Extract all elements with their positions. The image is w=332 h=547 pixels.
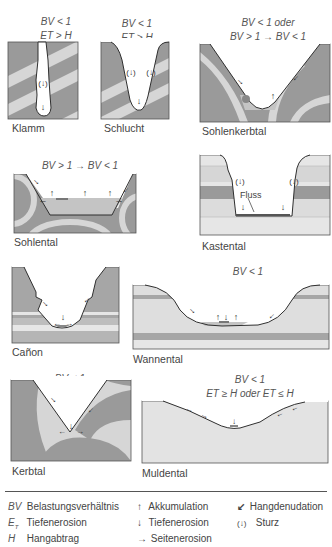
legend-tiefenerosion: ↓ Tiefenerosion: [137, 517, 209, 528]
legend-abbrev-et: ET Tiefenerosion: [8, 517, 87, 530]
legend-divider: [5, 491, 327, 492]
arrow-up-icon: ↑: [137, 501, 146, 512]
legend-sturz: (↓) Sturz: [237, 517, 279, 528]
muldental-label: Muldental: [142, 467, 188, 479]
legend-seitenerosion: → Seitenerosion: [137, 533, 212, 544]
legend-akkumulation: ↑ Akkumulation: [137, 501, 208, 512]
arrow-down-icon: ↓: [137, 517, 146, 528]
slope-arrow-icon: ↙: [237, 501, 247, 512]
legend-abbrev-bv: BV Belastungsverhältnis: [8, 501, 119, 512]
bracket-arrow-down-icon: (↓): [237, 519, 253, 528]
svg-text:↓: ↓: [232, 417, 236, 426]
legend-hangdenudation: ↙ Hangdenudation: [237, 501, 323, 512]
arrow-right-icon: →: [137, 533, 148, 544]
muldental-diagram: → → → → ↓: [0, 0, 332, 547]
legend-abbrev-h: H Hangabtrag: [8, 533, 79, 544]
